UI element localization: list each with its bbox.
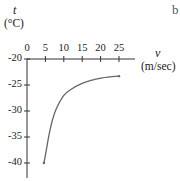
x-tick-label: 20 xyxy=(95,43,106,54)
y-tick-label: -40 xyxy=(0,157,22,168)
y-tick-label: -30 xyxy=(0,105,22,116)
x-tick-label: 15 xyxy=(77,43,88,54)
cropped-text-fragment: b xyxy=(172,2,179,18)
curve-markers xyxy=(43,75,120,164)
y-axis-variable-label: t xyxy=(13,4,16,16)
y-tick-label: -25 xyxy=(0,79,22,90)
x-tick-label: 25 xyxy=(114,43,125,54)
data-curve xyxy=(44,76,119,163)
y-axis-unit-label: (°C) xyxy=(4,18,24,30)
x-tick-label: 5 xyxy=(43,43,48,54)
x-axis-unit-label: (m/sec) xyxy=(141,61,175,73)
x-tick-label: 0 xyxy=(24,43,29,54)
x-axis-variable-label: v xyxy=(155,47,160,59)
y-tick-label: -20 xyxy=(0,53,22,64)
chart-canvas xyxy=(0,0,180,181)
y-tick-label: -35 xyxy=(0,131,22,142)
x-tick-label: 10 xyxy=(59,43,70,54)
